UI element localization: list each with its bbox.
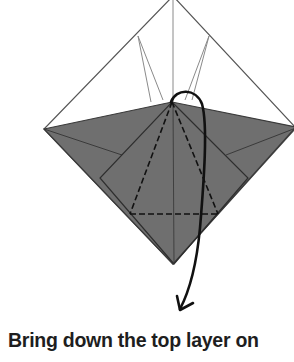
gray-folded-layer [44, 102, 294, 264]
instruction-caption: Bring down the top layer on [8, 328, 278, 352]
origami-diagram [0, 0, 294, 320]
